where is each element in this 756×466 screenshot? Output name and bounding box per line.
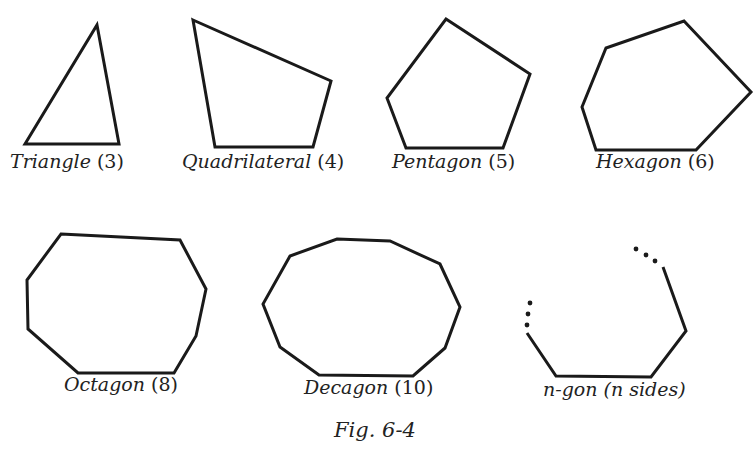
octagon-shape <box>27 234 206 373</box>
hexagon-shape <box>582 21 751 150</box>
n-gon-shape <box>527 267 686 377</box>
n-gon-name: n-gon <box>543 378 598 400</box>
hexagon-count: (6) <box>688 150 715 172</box>
decagon-label: Decagon (10) <box>304 378 433 397</box>
triangle-label: Triangle (3) <box>10 152 124 171</box>
octagon-label: Octagon (8) <box>64 375 178 394</box>
triangle-count: (3) <box>97 150 124 172</box>
pentagon-shape <box>387 19 530 148</box>
figure-caption: Fig. 6-4 <box>334 420 416 441</box>
n-gon-count: (n sides) <box>604 378 686 400</box>
n-gon-ellipsis-left-icon <box>525 301 533 328</box>
triangle-name: Triangle <box>10 150 91 172</box>
figure-6-4: Triangle (3) Quadrilateral (4) Pentagon … <box>0 0 756 466</box>
pentagon-count: (5) <box>488 150 515 172</box>
pentagon-label: Pentagon (5) <box>392 152 515 171</box>
hexagon-name: Hexagon <box>596 150 682 172</box>
triangle-shape <box>25 25 119 144</box>
quadrilateral-count: (4) <box>317 150 344 172</box>
decagon-name: Decagon <box>304 376 388 398</box>
pentagon-name: Pentagon <box>392 150 482 172</box>
quadrilateral-name: Quadrilateral <box>182 150 311 172</box>
n-gon-label: n-gon (n sides) <box>543 380 686 399</box>
octagon-count: (8) <box>151 373 178 395</box>
hexagon-label: Hexagon (6) <box>596 152 715 171</box>
quadrilateral-label: Quadrilateral (4) <box>182 152 344 171</box>
n-gon-ellipsis-top-icon <box>634 247 658 264</box>
octagon-name: Octagon <box>64 373 145 395</box>
decagon-count: (10) <box>394 376 433 398</box>
quadrilateral-shape <box>193 20 331 147</box>
decagon-shape <box>263 239 460 376</box>
